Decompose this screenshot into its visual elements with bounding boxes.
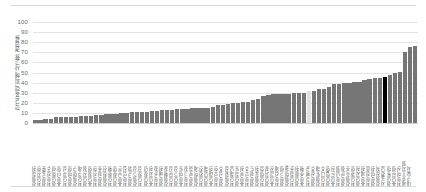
- x-tick-label: 대구 달서: [408, 124, 413, 186]
- y-tick-label-10: 10: [21, 110, 28, 116]
- bar: [231, 103, 235, 123]
- bar: [104, 114, 108, 123]
- bottom-divider: [10, 186, 416, 187]
- bar: [327, 87, 331, 123]
- bar: [226, 104, 230, 123]
- bar: [256, 99, 260, 123]
- bar: [297, 93, 301, 123]
- bar: [398, 72, 402, 124]
- plot-area: [33, 22, 418, 123]
- bar: [160, 110, 164, 123]
- bar: [307, 91, 311, 123]
- bar: [413, 46, 417, 123]
- bar: [403, 52, 407, 123]
- bar: [216, 105, 220, 123]
- bar: [246, 102, 250, 123]
- bar: [43, 119, 47, 123]
- y-tick-label-100: 100: [17, 19, 28, 25]
- bar: [352, 82, 356, 123]
- bar: [69, 117, 73, 123]
- bar: [170, 110, 174, 123]
- bar: [211, 107, 215, 123]
- x-axis-tick-labels: 강원 화천전남 신안경북 울릉전북 장수경남 의령충북 단양전남 곡성경북 영양…: [33, 124, 418, 186]
- bar: [190, 108, 194, 123]
- y-tick-label-20: 20: [21, 100, 28, 106]
- y-tick-label-60: 60: [21, 59, 28, 65]
- bar: [337, 84, 341, 123]
- y-tick-label-50: 50: [21, 70, 28, 76]
- bar: [124, 113, 128, 123]
- bar: [276, 94, 280, 123]
- bar: [135, 112, 139, 123]
- bar: [165, 110, 169, 123]
- bar: [367, 79, 371, 123]
- bar: [180, 109, 184, 123]
- y-axis-tick-labels: 1009080706050403020100: [0, 22, 31, 123]
- bar: [322, 89, 326, 123]
- bar: [79, 116, 83, 123]
- chart-figure: 학교 폭력 피해 사고율 경험률 1009080706050403020100 …: [0, 0, 426, 192]
- bar: [59, 117, 63, 123]
- bar: [292, 93, 296, 123]
- bar-series: [33, 22, 418, 123]
- bar: [312, 91, 316, 123]
- bar: [266, 95, 270, 123]
- bar: [109, 114, 113, 123]
- bar: [145, 112, 149, 123]
- bar: [94, 115, 98, 123]
- bar: [119, 113, 123, 123]
- bar: [378, 78, 382, 123]
- bar: [99, 115, 103, 123]
- bar: [150, 111, 154, 123]
- y-tick-label-80: 80: [21, 39, 28, 45]
- bar: [200, 108, 204, 123]
- bar: [241, 102, 245, 123]
- bar: [33, 120, 37, 123]
- bar: [114, 114, 118, 123]
- bar: [54, 117, 58, 123]
- bar: [347, 83, 351, 123]
- y-tick-label-90: 90: [21, 29, 28, 35]
- bar: [175, 109, 179, 123]
- x-tick-label: [413, 124, 418, 186]
- bar: [383, 77, 387, 123]
- bar: [302, 93, 306, 123]
- bar: [317, 89, 321, 123]
- y-tick-label-30: 30: [21, 90, 28, 96]
- bar: [357, 82, 361, 123]
- y-tick-label-70: 70: [21, 49, 28, 55]
- bar: [205, 108, 209, 123]
- bar: [362, 80, 366, 123]
- bar: [130, 112, 134, 123]
- bar: [221, 105, 225, 123]
- bar: [342, 83, 346, 123]
- bar: [74, 117, 78, 123]
- bar: [84, 116, 88, 123]
- x-tick-label-text: 대구 달서: [408, 124, 413, 186]
- bar: [388, 75, 392, 123]
- bar: [38, 120, 42, 123]
- bar: [155, 111, 159, 123]
- bar: [281, 94, 285, 123]
- bar: [373, 78, 377, 123]
- bar: [195, 108, 199, 123]
- bar: [236, 103, 240, 123]
- bar: [89, 116, 93, 123]
- bar: [271, 94, 275, 123]
- bar: [64, 117, 68, 123]
- bar: [286, 94, 290, 123]
- bar: [251, 100, 255, 123]
- bar: [393, 73, 397, 124]
- bar: [408, 47, 412, 123]
- bar: [49, 119, 53, 123]
- bar: [332, 84, 336, 123]
- y-tick-label-40: 40: [21, 80, 28, 86]
- bar: [261, 96, 265, 123]
- bar: [140, 112, 144, 123]
- y-tick-label-0: 0: [24, 120, 28, 126]
- top-divider: [10, 5, 416, 6]
- bar: [185, 109, 189, 123]
